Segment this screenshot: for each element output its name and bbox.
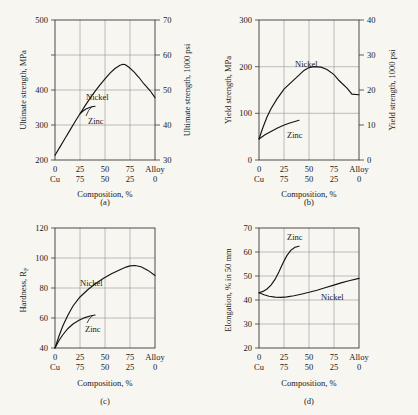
panel-c-ytick-60: 60 <box>40 313 49 323</box>
panel-d-xtick-bot-cu: Cu <box>254 362 265 372</box>
panel-b-xtick-top-alloy: Alloy <box>349 164 369 174</box>
panel-c-xtick-bot-75: 75 <box>76 362 85 372</box>
panel-c-label-zinc: Zinc <box>85 324 101 334</box>
panel-b-xtick-bot-0: 0 <box>357 174 361 184</box>
panel-d-ytick-20: 20 <box>244 343 253 353</box>
panel-c-letter: (c) <box>100 396 110 406</box>
panel-a-ytick-300: 300 <box>35 120 48 130</box>
panel-a-yaxis-title: Ultimate strength, MPa <box>18 50 28 130</box>
panel-a-label-zinc: Zinc <box>88 116 104 126</box>
panel-b-svg: 300 200 100 0 0 10 20 30 40 0 25 50 75 A… <box>209 0 418 207</box>
panel-d-left-ticks <box>255 228 259 348</box>
panel-b-rtick-10: 10 <box>367 120 376 130</box>
panel-d-ytick-60: 60 <box>244 247 253 257</box>
panel-b-ytick-0: 0 <box>248 155 252 165</box>
panel-a-yaxis-right-title: Ultimate strength, 1000 psi <box>182 43 192 136</box>
panel-a-left-ticks <box>51 20 55 160</box>
panel-c-xtick-top-25: 25 <box>76 352 85 362</box>
panel-c-ytick-120: 120 <box>35 223 48 233</box>
panel-a-rtick-40: 40 <box>163 120 172 130</box>
panel-d-ytick-70: 70 <box>244 223 253 233</box>
panel-d-svg: 70 60 50 40 30 20 0 25 50 75 Alloy Cu 75… <box>209 208 418 415</box>
panel-b-rtick-40: 40 <box>367 15 376 25</box>
panel-a-xtick-top-0: 0 <box>53 164 57 174</box>
panel-c-xtick-top-75: 75 <box>126 352 135 362</box>
panel-c-ytick-100: 100 <box>35 253 48 263</box>
panel-c-xtick-top-0: 0 <box>53 352 57 362</box>
panel-c-xtick-bot-0: 0 <box>153 362 157 372</box>
panel-a-xtick-bot-75: 75 <box>76 174 85 184</box>
chart-panel-b: 300 200 100 0 0 10 20 30 40 0 25 50 75 A… <box>209 0 418 207</box>
panel-c-xaxis-title: Composition, % <box>77 378 132 388</box>
panel-d-xtick-top-0: 0 <box>257 352 261 362</box>
panel-b-xtick-top-25: 25 <box>280 164 289 174</box>
panel-c-xtick-top-50: 50 <box>101 352 110 362</box>
panel-d-label-nickel: Nickel <box>321 292 344 302</box>
panel-a-xtick-bot-50: 50 <box>101 174 110 184</box>
panel-d-xtick-top-alloy: Alloy <box>349 352 369 362</box>
panel-b-ytick-300: 300 <box>239 15 252 25</box>
panel-d-xaxis-title: Composition, % <box>281 378 336 388</box>
panel-c-xtick-top-alloy: Alloy <box>145 352 165 362</box>
panel-b-xtick-bot-75: 75 <box>280 174 289 184</box>
panel-d-xtick-bot-25: 25 <box>330 362 339 372</box>
panel-a-xtick-top-75: 75 <box>126 164 135 174</box>
panel-b-rtick-30: 30 <box>367 50 376 60</box>
panel-d-grid <box>259 228 359 348</box>
panel-c-xtick-bot-cu: Cu <box>50 362 61 372</box>
panel-b-yaxis-right-title: Yield strength, 1000 psi <box>387 49 397 131</box>
chart-panel-c: 120 100 80 60 40 0 25 50 75 Alloy Cu 75 … <box>0 208 209 415</box>
panel-c-ytick-40: 40 <box>40 343 49 353</box>
panel-a-letter: (a) <box>100 197 110 207</box>
panel-b-yaxis-title: Yield strength, MPa <box>223 56 233 124</box>
panel-d-xtick-bot-50: 50 <box>305 362 314 372</box>
panel-b-xtick-top-0: 0 <box>257 164 261 174</box>
panel-d-yaxis-title: Elongation, % in 50 mm <box>223 248 233 332</box>
panel-c-ytick-80: 80 <box>40 283 49 293</box>
panel-a-ytick-400: 400 <box>35 85 48 95</box>
chart-panel-d: 70 60 50 40 30 20 0 25 50 75 Alloy Cu 75… <box>209 208 418 415</box>
panel-a-ytick-200: 200 <box>35 155 48 165</box>
panel-b-left-ticks <box>255 20 259 160</box>
panel-b-label-zinc: Zinc <box>287 130 303 140</box>
panel-a-grid <box>55 20 155 160</box>
figure-four-panel-alloy-properties: 500 400 300 200 30 40 50 60 70 0 25 50 7… <box>0 0 418 415</box>
panel-b-rtick-20: 20 <box>367 85 376 95</box>
panel-c-yaxis-title: Hardness, RF <box>18 267 29 313</box>
panel-b-label-nickel: Nickel <box>295 59 318 69</box>
panel-a-xtick-bot-0: 0 <box>153 174 157 184</box>
panel-a-xtick-bot-25: 25 <box>126 174 135 184</box>
panel-d-xtick-top-25: 25 <box>280 352 289 362</box>
panel-a-right-ticks <box>155 20 160 160</box>
panel-b-xtick-bot-cu: Cu <box>254 174 265 184</box>
panel-d-ytick-50: 50 <box>244 271 253 281</box>
panel-b-letter: (b) <box>304 197 314 207</box>
chart-panel-a: 500 400 300 200 30 40 50 60 70 0 25 50 7… <box>0 0 209 207</box>
panel-a-ytick-500: 500 <box>35 15 48 25</box>
panel-c-grid <box>55 228 155 348</box>
panel-d-xtick-top-75: 75 <box>330 352 339 362</box>
panel-c-label-nickel: Nickel <box>80 278 103 288</box>
panel-b-right-ticks <box>359 20 364 160</box>
panel-b-xtick-bot-50: 50 <box>305 174 314 184</box>
panel-a-rtick-50: 50 <box>163 85 172 95</box>
panel-a-xtick-top-alloy: Alloy <box>145 164 165 174</box>
panel-a-xtick-top-25: 25 <box>76 164 85 174</box>
panel-a-svg: 500 400 300 200 30 40 50 60 70 0 25 50 7… <box>0 0 209 207</box>
panel-a-label-nickel: Nickel <box>86 92 109 102</box>
panel-b-xtick-top-75: 75 <box>330 164 339 174</box>
panel-c-left-ticks <box>51 228 55 348</box>
panel-c-xtick-bot-25: 25 <box>126 362 135 372</box>
panel-d-xtick-bot-0: 0 <box>357 362 361 372</box>
panel-a-rtick-60: 60 <box>163 50 172 60</box>
panel-b-ytick-100: 100 <box>239 108 252 118</box>
panel-b-xtick-bot-25: 25 <box>330 174 339 184</box>
panel-d-xtick-top-50: 50 <box>305 352 314 362</box>
panel-a-xtick-bot-cu: Cu <box>50 174 61 184</box>
panel-d-ytick-40: 40 <box>244 295 253 305</box>
panel-b-ytick-200: 200 <box>239 62 252 72</box>
panel-d-label-zinc: Zinc <box>287 232 303 242</box>
panel-a-xtick-top-50: 50 <box>101 164 110 174</box>
panel-d-xtick-bot-75: 75 <box>280 362 289 372</box>
panel-d-ytick-30: 30 <box>244 319 253 329</box>
